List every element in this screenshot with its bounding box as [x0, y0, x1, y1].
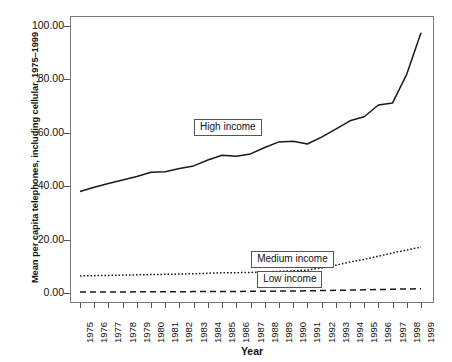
- y-tick-label: 40.00: [16, 180, 64, 190]
- y-tick-mark: [64, 186, 70, 187]
- series-label-low-income: Low income: [257, 271, 322, 288]
- x-axis-tick-labels: 1975197619771978197919801981198219831984…: [70, 309, 434, 347]
- x-tick-mark: [279, 303, 280, 308]
- x-tick-label: 1989: [283, 322, 294, 343]
- x-tick-mark: [350, 303, 351, 308]
- x-tick-label: 1980: [155, 322, 166, 343]
- x-tick-mark: [208, 303, 209, 308]
- x-tick-label: 1982: [183, 322, 194, 343]
- x-tick-mark: [194, 303, 195, 308]
- x-tick-mark: [151, 303, 152, 308]
- y-tick-mark: [64, 240, 70, 241]
- series-line-high-income: [80, 33, 421, 192]
- x-tick-label: 1977: [112, 322, 123, 343]
- x-tick-mark: [251, 303, 252, 308]
- y-tick-label: 60.00: [16, 127, 64, 137]
- y-tick-label: 0.00: [16, 287, 64, 297]
- x-tick-label: 1998: [411, 322, 422, 343]
- x-tick-label: 1978: [127, 322, 138, 343]
- x-tick-label: 1983: [198, 322, 209, 343]
- x-tick-mark: [108, 303, 109, 308]
- y-tick-mark: [64, 133, 70, 134]
- x-tick-mark: [407, 303, 408, 308]
- x-tick-label: 1979: [141, 322, 152, 343]
- y-tick-label: 100.00: [16, 20, 64, 30]
- x-tick-mark: [123, 303, 124, 308]
- x-tick-label: 1997: [397, 322, 408, 343]
- x-tick-mark: [265, 303, 266, 308]
- x-tick-mark: [80, 303, 81, 308]
- series-label-medium-income: Medium income: [251, 251, 334, 268]
- x-tick-label: 1975: [84, 322, 95, 343]
- x-tick-mark: [393, 303, 394, 308]
- y-tick-mark: [64, 26, 70, 27]
- x-tick-label: 1992: [326, 322, 337, 343]
- x-tick-label: 1990: [297, 322, 308, 343]
- chart-container: Mean per capita telephones, including ce…: [0, 0, 452, 362]
- plot-area: High income Medium income Low income: [70, 16, 434, 303]
- x-tick-label: 1988: [269, 322, 280, 343]
- x-tick-mark: [364, 303, 365, 308]
- series-line-low-income: [80, 289, 421, 292]
- x-tick-label: 1994: [354, 322, 365, 343]
- x-tick-mark: [165, 303, 166, 308]
- x-tick-mark: [378, 303, 379, 308]
- x-tick-label: 1996: [382, 322, 393, 343]
- y-tick-label: 20.00: [16, 234, 64, 244]
- x-tick-label: 1986: [240, 322, 251, 343]
- series-label-high-income: High income: [194, 119, 262, 136]
- x-tick-mark: [307, 303, 308, 308]
- x-tick-mark: [293, 303, 294, 308]
- y-tick-mark: [64, 79, 70, 80]
- y-tick-mark: [64, 293, 70, 294]
- x-tick-mark: [179, 303, 180, 308]
- x-tick-mark: [137, 303, 138, 308]
- x-tick-mark: [222, 303, 223, 308]
- x-tick-label: 1984: [212, 322, 223, 343]
- y-axis-tick-labels: 0.0020.0040.0060.0080.00100.00: [14, 0, 64, 362]
- x-tick-label: 1991: [311, 322, 322, 343]
- x-tick-mark: [421, 303, 422, 308]
- x-tick-label: 1999: [425, 322, 436, 343]
- x-tick-label: 1987: [255, 322, 266, 343]
- x-tick-mark: [94, 303, 95, 308]
- y-tick-label: 80.00: [16, 73, 64, 83]
- x-tick-label: 1976: [98, 322, 109, 343]
- x-tick-label: 1985: [226, 322, 237, 343]
- x-axis-title: Year: [70, 345, 434, 357]
- x-tick-mark: [236, 303, 237, 308]
- x-tick-mark: [322, 303, 323, 308]
- x-tick-label: 1993: [340, 322, 351, 343]
- x-tick-label: 1981: [169, 322, 180, 343]
- x-tick-mark: [336, 303, 337, 308]
- x-tick-label: 1995: [368, 322, 379, 343]
